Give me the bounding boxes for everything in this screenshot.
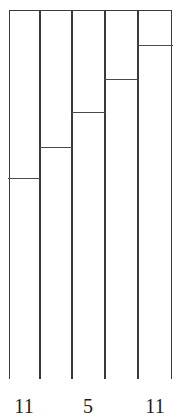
- bar-divider-5: [137, 45, 172, 46]
- bar-divider-3: [71, 112, 105, 113]
- bar-column-2: [40, 10, 72, 379]
- bar-segment-upper-5: [139, 11, 171, 45]
- bar-segment-lower-3: [73, 112, 104, 380]
- bar-segment-lower-2: [41, 147, 71, 380]
- bar-divider-1: [8, 178, 40, 179]
- axis-tick-label-1: 11: [14, 396, 33, 416]
- bar-divider-4: [104, 79, 138, 80]
- axis-tick-label-2: 5: [83, 396, 93, 416]
- bar-column-1: [9, 10, 40, 379]
- bar-segment-upper-4: [106, 11, 137, 79]
- axis-tick-label-3: 11: [145, 396, 164, 416]
- bar-column-4: [105, 10, 138, 379]
- bar-column-3: [72, 10, 105, 379]
- bar-column-5: [138, 10, 172, 379]
- bar-segment-lower-5: [139, 45, 171, 380]
- bar-segment-upper-3: [73, 11, 104, 112]
- axis-tick-label-row: 11511: [0, 396, 196, 417]
- stacked-column-plot-area: [9, 10, 172, 379]
- bar-segment-upper-2: [41, 11, 71, 147]
- bar-segment-lower-1: [10, 178, 39, 380]
- bar-segment-lower-4: [106, 79, 137, 380]
- bar-divider-2: [39, 147, 72, 148]
- bar-segment-upper-1: [10, 11, 39, 178]
